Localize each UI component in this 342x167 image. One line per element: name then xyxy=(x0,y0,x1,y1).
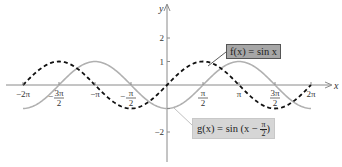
y-tick-label: 1 xyxy=(160,57,165,67)
svg-text:2: 2 xyxy=(129,98,134,108)
y-tick-label: −2 xyxy=(154,127,164,137)
sine-graph: xy −2π−3π2−π−π2π2π3π22π21−2 xyxy=(0,0,342,167)
axes: xy xyxy=(6,3,339,162)
svg-text:π: π xyxy=(129,88,134,98)
svg-text:−: − xyxy=(48,91,53,101)
x-tick-label: 2π xyxy=(306,89,316,99)
y-tick-label: 2 xyxy=(160,33,165,43)
x-tick-label: −2π xyxy=(16,89,31,99)
f-callout: f(x) = sin x xyxy=(226,44,281,59)
g-leader-line xyxy=(174,108,192,125)
x-tick-label: −π xyxy=(90,89,100,99)
g-callout: g(x) = sin (x − π2) xyxy=(192,118,275,139)
g-callout-text: g(x) = sin (x − xyxy=(197,123,260,134)
y-axis-label: y xyxy=(158,3,164,14)
x-axis-label: x xyxy=(333,80,339,91)
f-leader-line xyxy=(208,52,226,66)
svg-text:2: 2 xyxy=(273,98,278,108)
svg-text:π: π xyxy=(201,88,206,98)
svg-text:3π: 3π xyxy=(54,88,64,98)
svg-text:−: − xyxy=(120,91,125,101)
x-tick-label: 3π2 xyxy=(270,88,280,108)
x-tick-label: π xyxy=(237,89,242,99)
svg-text:2: 2 xyxy=(201,98,206,108)
x-tick-label: −π2 xyxy=(120,88,136,108)
svg-text:2: 2 xyxy=(57,98,62,108)
x-tick-label: −3π2 xyxy=(48,88,64,108)
x-tick-label: π2 xyxy=(198,88,208,108)
svg-text:3π: 3π xyxy=(270,88,280,98)
f-callout-text: f(x) = sin x xyxy=(230,46,277,57)
